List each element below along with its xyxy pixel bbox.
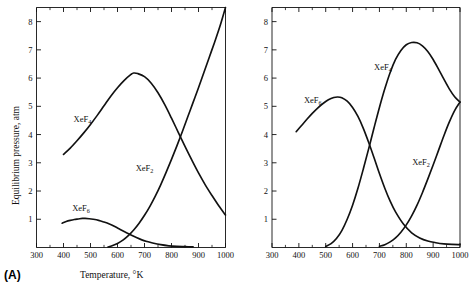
curve-XeF2	[108, 8, 225, 247]
x-tick-label: 800	[400, 250, 413, 260]
y-tick-label: 4	[28, 130, 33, 140]
chart-svg-a: 300400500600700800900100012345678XeF4XeF…	[0, 0, 237, 287]
y-tick-label: 5	[28, 101, 32, 111]
curve-label-XeF2: XeF2	[412, 157, 430, 168]
curve-XeF4	[64, 73, 226, 215]
y-tick-label: 3	[264, 158, 268, 168]
x-axis-title-a: Temperature, °K	[80, 270, 143, 280]
y-tick-label: 7	[28, 45, 32, 55]
x-tick-label: 800	[165, 250, 178, 260]
y-tick-label: 6	[264, 73, 268, 83]
curve-label-XeF6: XeF6	[304, 95, 322, 106]
y-tick-label: 8	[264, 17, 268, 27]
x-tick-label: 900	[192, 250, 205, 260]
x-tick-label: 1000	[452, 250, 469, 260]
curve-label-XeF4: XeF4	[374, 62, 392, 73]
x-tick-label: 300	[266, 250, 279, 260]
y-tick-label: 2	[28, 186, 32, 196]
y-tick-label: 6	[28, 73, 32, 83]
y-tick-label: 7	[264, 45, 268, 55]
y-tick-label: 4	[264, 130, 269, 140]
x-tick-label: 700	[373, 250, 386, 260]
panel-label-a: (A)	[4, 268, 21, 282]
y-tick-label: 5	[264, 101, 268, 111]
y-tick-label: 1	[264, 214, 268, 224]
curve-XeF2	[379, 102, 460, 246]
chart-panel-a: 300400500600700800900100012345678XeF4XeF…	[0, 0, 237, 287]
curve-label-XeF6: XeF6	[72, 203, 90, 214]
curve-XeF6	[296, 97, 460, 245]
chart-panel-b: 300400500600700800900100012345678XeF6XeF…	[237, 0, 473, 287]
x-tick-label: 600	[111, 250, 124, 260]
chart-svg-b: 300400500600700800900100012345678XeF6XeF…	[237, 0, 473, 287]
x-tick-label: 900	[427, 250, 440, 260]
y-tick-label: 2	[264, 186, 268, 196]
x-tick-label: 500	[319, 250, 332, 260]
x-tick-label: 400	[57, 250, 70, 260]
x-tick-label: 1000	[217, 250, 234, 260]
curve-label-XeF4: XeF4	[74, 114, 92, 125]
x-tick-label: 400	[292, 250, 305, 260]
figure-equilibrium-pressure: 300400500600700800900100012345678XeF4XeF…	[0, 0, 473, 287]
x-tick-label: 300	[30, 250, 43, 260]
x-tick-label: 600	[346, 250, 359, 260]
curve-XeF6	[62, 218, 193, 247]
x-tick-label: 700	[138, 250, 151, 260]
curve-label-XeF2: XeF2	[136, 163, 154, 174]
y-axis-title-a: Equilibrium pressure, atm	[11, 106, 21, 205]
y-tick-label: 3	[28, 158, 32, 168]
x-tick-label: 500	[84, 250, 97, 260]
y-tick-label: 8	[28, 17, 32, 27]
y-tick-label: 1	[28, 214, 32, 224]
